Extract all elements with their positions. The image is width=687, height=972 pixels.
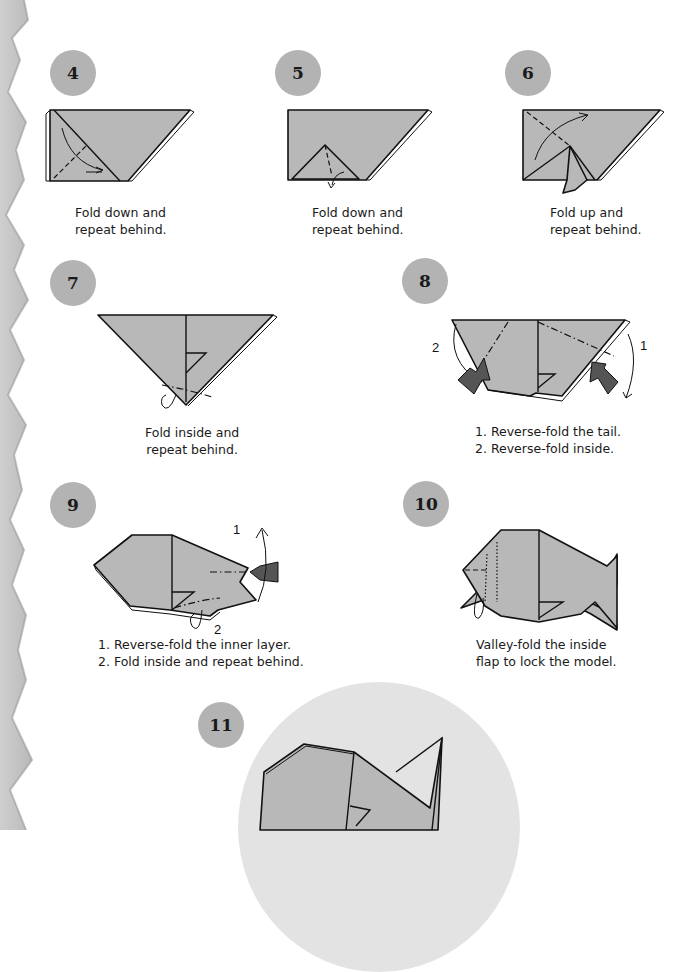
- fold-diagram-step-5: [280, 100, 450, 195]
- step-number-badge: 7: [50, 260, 96, 306]
- svg-text:1: 1: [640, 338, 647, 353]
- torn-page-edge: [0, 0, 40, 830]
- step-number-badge: 11: [198, 702, 244, 748]
- fold-diagram-step-6: [515, 100, 685, 200]
- svg-text:1: 1: [233, 522, 240, 537]
- step-number-badge: 6: [505, 50, 551, 96]
- step-number-badge: 4: [50, 50, 96, 96]
- step-number-badge: 10: [403, 481, 449, 527]
- svg-text:2: 2: [214, 622, 221, 637]
- fold-diagram-step-7: [90, 305, 280, 415]
- fold-diagram-step-4: [40, 100, 200, 190]
- step-caption: Fold down and repeat behind.: [75, 204, 167, 238]
- step-number-badge: 5: [275, 50, 321, 96]
- step-caption: 1. Reverse-fold the tail. 2. Reverse-fol…: [475, 423, 621, 457]
- step-caption: Valley-fold the inside flap to lock the …: [476, 636, 617, 670]
- fold-diagram-step-8: 2 1: [440, 310, 650, 420]
- step-caption: 1. Reverse-fold the inner layer. 2. Fold…: [98, 636, 304, 670]
- step-caption: Fold inside and repeat behind.: [145, 424, 239, 458]
- fold-diagram-step-9: 1 2: [90, 510, 290, 630]
- fold-diagram-step-11: [260, 730, 460, 830]
- fold-diagram-step-10: [455, 510, 635, 620]
- svg-text:2: 2: [432, 340, 439, 355]
- step-number-badge: 8: [402, 258, 448, 304]
- step-caption: Fold up and repeat behind.: [550, 204, 642, 238]
- step-caption: Fold down and repeat behind.: [312, 204, 404, 238]
